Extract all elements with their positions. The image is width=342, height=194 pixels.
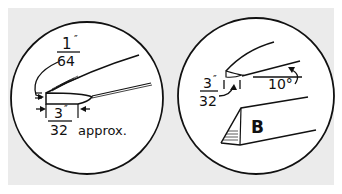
- left-bottom-unit: ″: [64, 104, 68, 115]
- right-numerator: 3: [203, 75, 212, 91]
- left-top-unit: ″: [74, 34, 78, 45]
- left-bottom-numerator: 3: [54, 105, 63, 121]
- left-detail-circle: [11, 22, 163, 174]
- right-part-label: B: [251, 117, 264, 137]
- right-unit: ″: [213, 74, 217, 85]
- left-top-denominator: 64: [57, 53, 75, 69]
- tool-bit-diagram: 1 ″ 64 3 ″ 32 approx. 3 ″: [0, 0, 342, 194]
- left-bottom-denominator: 32: [50, 122, 68, 138]
- right-denominator: 32: [199, 93, 217, 109]
- left-top-numerator: 1: [62, 35, 72, 53]
- right-angle-label: 10°: [268, 76, 293, 92]
- left-bottom-approx: approx.: [78, 123, 127, 138]
